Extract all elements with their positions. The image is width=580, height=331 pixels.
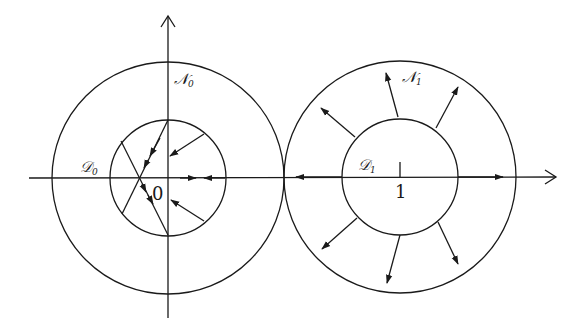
label-d0: 𝒟0 — [80, 158, 98, 177]
label-one: 1 — [395, 181, 406, 202]
label-n1: 𝒩1 — [402, 68, 422, 87]
label-origin: 0 — [152, 183, 163, 204]
phase-diagram: 𝒩0 𝒟0 0 𝒩1 𝒟1 1 — [0, 0, 580, 331]
label-n0: 𝒩0 — [174, 70, 194, 89]
label-d1: 𝒟1 — [358, 156, 376, 175]
